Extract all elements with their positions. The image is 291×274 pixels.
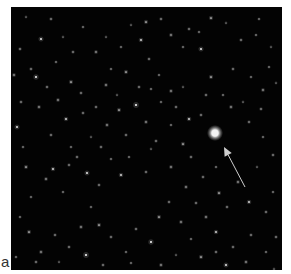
star: [255, 34, 256, 35]
star: [200, 48, 202, 50]
star: [198, 31, 199, 32]
star: [95, 51, 97, 53]
star: [116, 94, 117, 95]
star: [85, 254, 87, 256]
star: [195, 202, 196, 203]
star: [268, 66, 269, 67]
star: [190, 238, 191, 239]
star: [215, 231, 217, 233]
star: [190, 156, 191, 157]
star: [250, 76, 251, 77]
star: [232, 246, 233, 247]
star: [168, 201, 169, 202]
star: [35, 76, 37, 78]
star: [145, 171, 146, 172]
star: [57, 99, 59, 101]
star: [125, 251, 126, 252]
star: [222, 94, 223, 95]
star: [248, 121, 249, 122]
star: [262, 89, 264, 91]
star: [80, 92, 81, 93]
star: [125, 134, 126, 135]
star: [188, 118, 190, 120]
star: [215, 251, 216, 252]
star: [15, 256, 16, 257]
star: [272, 154, 273, 155]
star: [250, 234, 251, 235]
star: [145, 121, 147, 123]
star: [150, 148, 151, 149]
star: [210, 76, 212, 78]
star-field-image: [11, 7, 282, 270]
star: [118, 109, 120, 111]
star: [86, 172, 88, 174]
star: [22, 146, 23, 147]
star: [145, 21, 147, 23]
star: [128, 156, 129, 157]
star: [82, 112, 83, 113]
star: [242, 101, 243, 102]
star: [275, 82, 276, 83]
star: [273, 268, 274, 269]
star: [205, 216, 207, 218]
star: [148, 58, 149, 59]
star: [225, 22, 226, 23]
star: [98, 184, 99, 185]
star: [160, 101, 161, 102]
star: [25, 166, 27, 168]
star: [245, 261, 247, 263]
star: [188, 28, 189, 29]
star: [90, 136, 91, 137]
star: [110, 236, 111, 237]
star: [95, 106, 96, 107]
star: [225, 264, 227, 266]
star: [25, 16, 26, 17]
star: [68, 246, 69, 247]
star: [130, 24, 131, 25]
star: [150, 241, 152, 243]
star: [265, 211, 266, 212]
star: [180, 221, 182, 223]
star: [202, 176, 203, 177]
star: [46, 86, 47, 87]
star: [175, 106, 176, 107]
star: [205, 94, 206, 95]
star: [138, 86, 139, 87]
star: [150, 88, 151, 89]
star: [130, 262, 131, 263]
star: [30, 68, 31, 69]
star: [13, 74, 15, 76]
star: [125, 71, 127, 73]
star: [226, 206, 227, 207]
star: [120, 174, 122, 176]
star: [28, 231, 30, 233]
star: [170, 124, 171, 125]
star: [258, 18, 259, 19]
star: [100, 146, 101, 147]
star: [260, 108, 261, 109]
star: [200, 114, 201, 115]
star: [230, 106, 232, 108]
star: [265, 251, 266, 252]
star: [38, 106, 40, 108]
star: [182, 143, 184, 145]
star-field-canvas: [11, 7, 282, 270]
star: [170, 90, 172, 92]
star: [54, 234, 55, 235]
star: [155, 140, 156, 141]
star: [240, 39, 241, 40]
star: [158, 74, 159, 75]
star: [210, 17, 212, 19]
target-object: [212, 130, 219, 137]
star: [72, 51, 73, 52]
star: [182, 46, 183, 47]
star: [40, 251, 42, 253]
sky-background: [11, 7, 282, 270]
star: [120, 46, 121, 47]
star: [218, 192, 220, 194]
star: [135, 104, 137, 106]
star: [35, 261, 36, 262]
star: [248, 201, 250, 203]
star: [50, 134, 51, 135]
star: [62, 191, 63, 192]
